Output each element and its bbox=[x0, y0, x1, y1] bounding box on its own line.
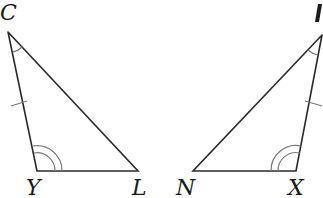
tick-mark-top-x bbox=[305, 101, 322, 106]
vertex-label-y: Y bbox=[26, 175, 43, 198]
congruent-triangles-diagram: C Y L N X bbox=[0, 0, 323, 198]
triangle-cyl-edges bbox=[8, 32, 138, 171]
angle-arc-c bbox=[13, 46, 23, 52]
angle-arc-top bbox=[308, 50, 318, 55]
tick-mark-cy bbox=[11, 101, 27, 106]
triangle-cyl bbox=[8, 32, 138, 171]
angle-arc-y-outer bbox=[33, 146, 62, 171]
triangle-right-edges bbox=[193, 35, 322, 171]
vertex-label-n: N bbox=[175, 175, 196, 198]
vertex-label-x: X bbox=[286, 175, 305, 198]
vertex-label-c: C bbox=[0, 0, 17, 25]
triangle-right bbox=[193, 35, 322, 171]
vertex-label-top-partial bbox=[315, 4, 322, 22]
vertex-label-l: L bbox=[131, 175, 147, 198]
